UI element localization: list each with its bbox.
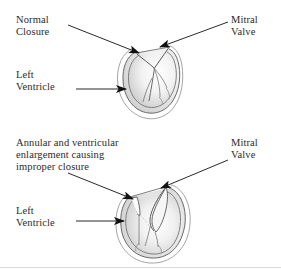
regurgitant-heart-illustration [0,133,281,276]
mitral-valve-figure: Normal Closure Mitral Valve Left Ventric… [0,0,281,276]
normal-closure-panel: Normal Closure Mitral Valve Left Ventric… [0,0,281,133]
mitral-valve-leader-bottom [161,160,228,188]
improper-closure-leader [68,173,133,199]
bottom-rule-divider [0,267,281,268]
normal-closure-leader [68,25,139,53]
normal-heart-illustration [0,0,281,143]
improper-closure-panel: Annular and ventricular enlargement caus… [0,133,281,276]
mitral-valve-leader-top [160,22,228,47]
